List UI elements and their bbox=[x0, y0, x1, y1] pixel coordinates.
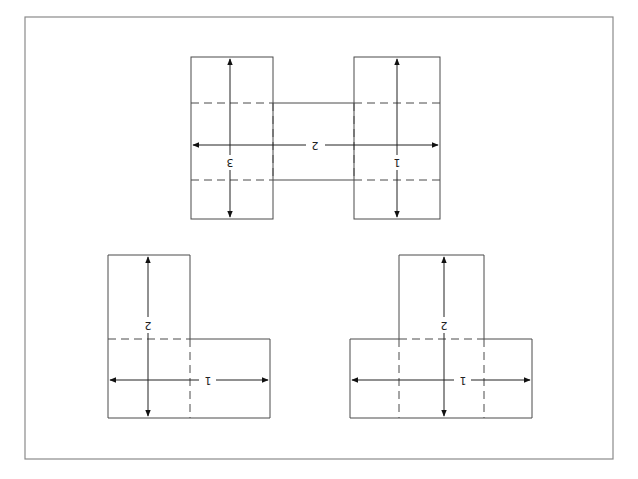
net-diagram: 3 1 2 2 1 2 1 bbox=[0, 0, 638, 479]
t-outline bbox=[350, 255, 532, 418]
l-shape: 2 1 bbox=[108, 255, 270, 418]
dimension-label: 1 bbox=[460, 374, 467, 387]
diagram-frame bbox=[25, 17, 613, 459]
dimension-label: 2 bbox=[145, 319, 152, 332]
l-outline bbox=[108, 255, 270, 418]
t-shape: 2 1 bbox=[350, 255, 532, 418]
dimension-label: 3 bbox=[227, 156, 234, 169]
dimension-label: 1 bbox=[394, 156, 401, 169]
h-shape: 3 1 2 bbox=[191, 57, 440, 219]
dimension-label: 2 bbox=[441, 319, 448, 332]
h-left-column bbox=[191, 57, 273, 219]
dimension-label: 1 bbox=[205, 374, 212, 387]
dimension-label: 2 bbox=[312, 139, 319, 152]
